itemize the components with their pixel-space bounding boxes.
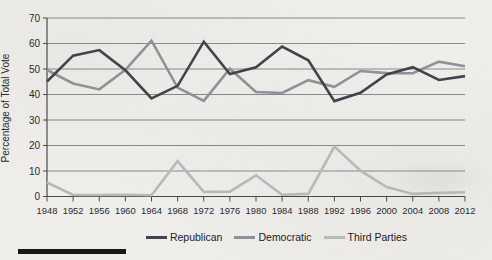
legend-swatch-third-parties [324, 236, 345, 239]
x-tick-label-2000: 2000 [376, 205, 397, 216]
scanned-page: Percentage of Total Vote 010203040506070… [0, 0, 492, 260]
legend-label-democratic: Democratic [258, 231, 311, 243]
x-tick-label-1964: 1964 [141, 205, 162, 216]
y-tick-label-30: 30 [29, 115, 41, 126]
y-tick-label-60: 60 [29, 38, 41, 49]
y-tick-label-40: 40 [29, 89, 41, 100]
x-tick-label-1992: 1992 [324, 205, 345, 216]
x-tick-label-1956: 1956 [89, 205, 110, 216]
x-tick-label-1968: 1968 [167, 205, 188, 216]
legend-label-third-parties: Third Parties [348, 231, 408, 243]
y-tick-label-50: 50 [29, 64, 41, 75]
y-tick-label-20: 20 [29, 140, 41, 151]
y-axis-title: Percentage of Total Vote [0, 53, 11, 162]
data-series [47, 41, 465, 196]
legend-swatch-republican [146, 236, 167, 239]
x-tick-label-1972: 1972 [193, 205, 214, 216]
y-tick-label-0: 0 [34, 191, 40, 202]
legend-swatch-democratic [234, 236, 255, 239]
x-tick-label-1976: 1976 [219, 205, 240, 216]
x-tick-label-2004: 2004 [402, 205, 423, 216]
gridlines [47, 18, 465, 197]
y-tick-labels: 010203040506070 [29, 13, 41, 203]
legend: RepublicanDemocraticThird Parties [47, 229, 492, 245]
page-rule-bar [18, 249, 126, 254]
axes [43, 18, 465, 202]
y-tick-label-10: 10 [29, 166, 41, 177]
x-tick-label-1960: 1960 [115, 205, 136, 216]
legend-item-democratic: Democratic [234, 231, 311, 243]
x-tick-label-1984: 1984 [272, 205, 293, 216]
x-tick-labels: 1948195219561960196419681972197619801984… [37, 205, 476, 216]
legend-label-republican: Republican [170, 231, 223, 243]
legend-item-republican: Republican [146, 231, 223, 243]
x-tick-label-1948: 1948 [37, 205, 58, 216]
legend-item-third-parties: Third Parties [324, 231, 408, 243]
election-line-chart: Percentage of Total Vote 010203040506070… [0, 0, 492, 260]
x-tick-label-2008: 2008 [428, 205, 449, 216]
x-tick-label-1996: 1996 [350, 205, 371, 216]
x-tick-label-1988: 1988 [298, 205, 319, 216]
x-tick-label-2012: 2012 [455, 205, 476, 216]
x-tick-label-1980: 1980 [246, 205, 267, 216]
y-tick-label-70: 70 [29, 13, 41, 24]
x-tick-label-1952: 1952 [63, 205, 84, 216]
